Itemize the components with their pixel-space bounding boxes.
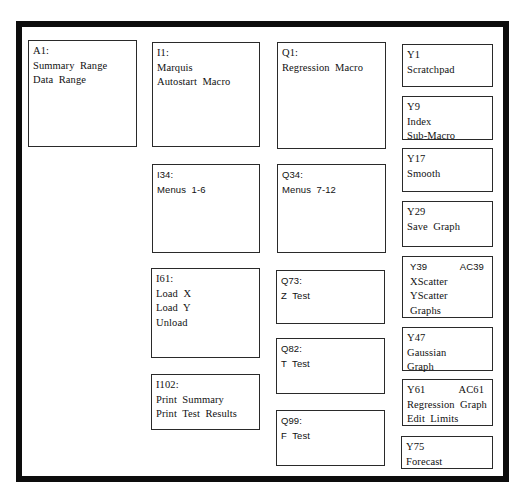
box-y39: Y39 AC39 XScatter YScatter Graphs [402, 256, 493, 318]
box-q99: Q99: F Test [276, 410, 385, 466]
box-line: Autostart Macro [157, 75, 255, 90]
box-y29: Y29 Save Graph [402, 201, 493, 247]
box-line: YScatter [410, 289, 488, 304]
cell-ref: I34: [157, 168, 255, 183]
cell-ref-end: AC39 [460, 260, 484, 275]
cell-ref: Y39 [410, 260, 427, 275]
box-line: Save Graph [407, 220, 488, 235]
box-y75: Y75 Forecast [401, 436, 493, 469]
box-line: Summary Range [33, 59, 132, 74]
box-line: F Test [281, 429, 380, 444]
box-i1: I1: Marquis Autostart Macro [152, 42, 260, 147]
box-line: XScatter [410, 275, 488, 290]
box-y61: Y61 AC61 Regression Graph Edit Limits [402, 379, 493, 426]
box-line: Forecast [406, 455, 488, 470]
box-y9: Y9 Index Sub-Macro [402, 96, 493, 140]
box-q82: Q82: T Test [276, 338, 385, 394]
box-y47: Y47 Gaussian Graph [402, 327, 493, 371]
box-y1: Y1 Scratchpad [402, 44, 493, 87]
cell-ref: Q99: [281, 414, 380, 429]
box-q34: Q34: Menus 7-12 [277, 164, 386, 253]
cell-ref: Q34: [282, 168, 381, 183]
box-line: Scratchpad [407, 63, 488, 78]
box-line: Regression Graph [407, 398, 488, 413]
box-line: Regression Macro [282, 61, 381, 76]
box-line: Graph [407, 360, 488, 375]
box-y17: Y17 Smooth [402, 148, 493, 192]
box-line: Graphs [410, 304, 488, 319]
cell-ref: Y9 [407, 100, 488, 115]
box-line: Print Summary [156, 393, 255, 408]
cell-ref: Q82: [281, 342, 380, 357]
box-line: Marquis [157, 61, 255, 76]
box-line: Print Test Results [156, 407, 255, 422]
box-line: Data Range [33, 73, 132, 88]
box-line: Edit Limits [407, 412, 488, 427]
cell-ref: Q1: [282, 46, 381, 61]
box-i102: I102: Print Summary Print Test Results [151, 374, 260, 430]
box-line: Load Y [156, 301, 255, 316]
box-line: Gaussian [407, 346, 488, 361]
box-line: Z Test [281, 289, 380, 304]
box-line: Index [407, 115, 488, 130]
box-i61: I61: Load X Load Y Unload [151, 268, 260, 358]
box-line: Menus 7-12 [282, 183, 381, 198]
box-q73: Q73: Z Test [276, 270, 385, 324]
box-q1: Q1: Regression Macro [277, 42, 386, 149]
box-line: Load X [156, 287, 255, 302]
box-line: Unload [156, 316, 255, 331]
cell-ref: I1: [157, 46, 255, 61]
box-line: Menus 1-6 [157, 183, 255, 198]
cell-ref-header: Y61 AC61 [407, 383, 488, 398]
box-i34: I34: Menus 1-6 [152, 164, 260, 253]
box-line: Sub-Macro [407, 129, 488, 144]
cell-ref: Y61 [407, 383, 425, 398]
box-line: Smooth [407, 167, 488, 182]
cell-ref: Q73: [281, 274, 380, 289]
cell-ref-end: AC61 [459, 383, 485, 398]
cell-ref: Y47 [407, 331, 488, 346]
cell-ref: I102: [156, 378, 255, 393]
cell-ref: Y75 [406, 440, 488, 455]
cell-ref-header: Y39 AC39 [410, 260, 488, 275]
cell-ref: Y29 [407, 205, 488, 220]
cell-ref: Y1 [407, 48, 488, 63]
cell-ref: I61: [156, 272, 255, 287]
box-a1: A1: Summary Range Data Range [28, 40, 137, 147]
cell-ref: Y17 [407, 152, 488, 167]
cell-ref: A1: [33, 44, 132, 59]
box-line: T Test [281, 357, 380, 372]
